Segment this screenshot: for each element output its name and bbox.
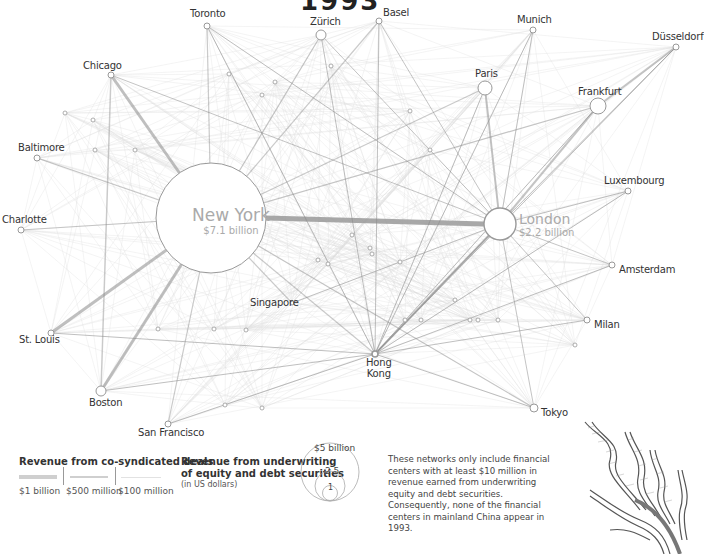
legend-circle-label-1: 1 (328, 483, 333, 492)
city-label-amsterdam: Amsterdam (619, 264, 675, 275)
hub-value: $7.1 billion (171, 225, 291, 236)
dragon-illustration-icon (580, 420, 704, 554)
legend-line-100m (121, 477, 161, 478)
city-label-st-louis: St. Louis (19, 334, 60, 345)
divider (63, 467, 64, 485)
hub-label-new-york: New York $7.1 billion (171, 205, 291, 236)
hub-label-london: London $2.2 billion (519, 211, 574, 238)
city-label-tokyo: Tokyo (541, 407, 568, 418)
legend-circle-label-5b: $5 billion (314, 443, 355, 453)
city-label-singapore: Singapore (250, 297, 299, 308)
city-label-milan: Milan (594, 319, 620, 330)
city-label-chicago: Chicago (83, 60, 122, 71)
footnote: These networks only include financial ce… (388, 454, 563, 535)
city-label-san-francisco: San Francisco (138, 427, 204, 438)
city-label-munich: Munich (517, 14, 552, 25)
city-label-toronto: Toronto (190, 8, 226, 19)
city-label-paris: Paris (475, 68, 498, 79)
legend-circle-label-2-5: 2.5 (325, 466, 339, 476)
hub-name: New York (171, 205, 291, 225)
legend-line-500m (70, 476, 108, 478)
hub-value: $2.2 billion (519, 227, 574, 238)
divider (115, 467, 116, 485)
city-label-charlotte: Charlotte (2, 214, 47, 225)
legend-underwriting-sub: (in US dollars) (181, 480, 237, 489)
legend-label-1b: $1 billion (19, 486, 60, 496)
city-label-basel: Basel (383, 7, 409, 18)
legend-label-500m: $500 million (66, 486, 122, 496)
city-label-d-sseldorf: Düsseldorf (652, 31, 704, 42)
city-label-luxembourg: Luxembourg (604, 175, 664, 186)
legend-line-1b (19, 475, 57, 479)
legend-label-100m: $100 million (118, 486, 174, 496)
city-label-baltimore: Baltimore (18, 142, 65, 153)
hub-name: London (519, 211, 574, 227)
city-label-frankfurt: Frankfurt (578, 86, 621, 97)
city-label-boston: Boston (89, 397, 122, 408)
city-label-z-rich: Zürich (310, 16, 341, 27)
city-label-hong-kong: HongKong (366, 357, 392, 379)
